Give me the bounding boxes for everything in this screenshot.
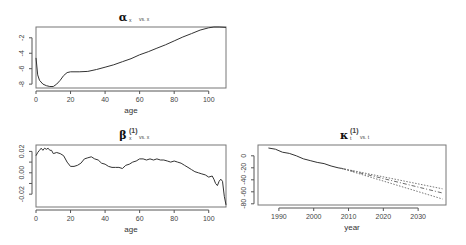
y-tick-label: -4 xyxy=(18,50,25,56)
x-tick-label: 60 xyxy=(136,96,144,103)
chart-title-subscript: t xyxy=(350,135,352,141)
x-tick-label: 80 xyxy=(170,96,178,103)
y-tick-label: -8 xyxy=(18,81,25,87)
chart-title: β xyxy=(119,129,126,142)
x-tick-label: 2030 xyxy=(410,213,426,220)
chart-title-superscript: (1) xyxy=(129,127,138,135)
figure-canvas: 020406080100age-2-4-6-8αxvs. x0204060801… xyxy=(0,0,466,245)
x-tick-label: 20 xyxy=(67,215,75,222)
chart-title-suffix: vs. x xyxy=(139,16,150,22)
x-tick-label: 40 xyxy=(101,215,109,222)
y-tick-label: -0.02 xyxy=(18,186,25,202)
x-tick-label: 1990 xyxy=(271,213,287,220)
y-tick-label: -2 xyxy=(18,35,25,41)
y-tick-label: -80 xyxy=(240,199,247,209)
y-tick-label: -6 xyxy=(18,65,25,71)
y-tick-label: -40 xyxy=(240,175,247,185)
plot-frame xyxy=(258,145,446,205)
chart-title: α xyxy=(119,11,128,24)
x-tick-label: 100 xyxy=(203,96,215,103)
x-tick-label: 60 xyxy=(136,215,144,222)
chart-title-subscript: x xyxy=(129,17,132,23)
y-tick-label: 0.02 xyxy=(18,144,25,158)
y-tick-label: 0.00 xyxy=(18,166,25,180)
x-tick-label: 0 xyxy=(34,215,38,222)
y-tick-label: -20 xyxy=(240,163,247,173)
chart-title-subscript: x xyxy=(129,135,132,141)
x-tick-label: 80 xyxy=(170,215,178,222)
y-tick-label: 0 xyxy=(240,154,247,158)
chart-beta: 020406080100age0.020.00-0.02βx(1)vs. x xyxy=(18,127,226,234)
x-tick-label: 2010 xyxy=(341,213,357,220)
x-tick-label: 40 xyxy=(101,96,109,103)
x-tick-label: 2000 xyxy=(306,213,322,220)
series-line xyxy=(342,168,443,199)
plot-frame xyxy=(36,145,226,207)
series-line xyxy=(36,148,226,205)
x-tick-label: 100 xyxy=(203,215,215,222)
series-line xyxy=(268,148,341,168)
plot-frame xyxy=(36,27,226,88)
y-tick-label: -60 xyxy=(240,187,247,197)
x-tick-label: 20 xyxy=(67,96,75,103)
x-tick-label: 0 xyxy=(34,96,38,103)
chart-alpha: 020406080100age-2-4-6-8αxvs. x xyxy=(18,11,226,115)
x-axis-title: year xyxy=(344,223,360,232)
chart-title-suffix: vs. t xyxy=(360,134,370,140)
chart-title: κ xyxy=(340,129,348,142)
series-line xyxy=(36,27,226,87)
x-axis-title: age xyxy=(124,106,138,115)
x-axis-title: age xyxy=(124,225,138,234)
chart-kappa: 19902000201020202030year0-20-40-60-80κt(… xyxy=(240,127,446,232)
series-line xyxy=(342,168,443,188)
chart-title-superscript: (1) xyxy=(350,127,359,135)
x-tick-label: 2020 xyxy=(376,213,392,220)
series-line xyxy=(342,168,443,193)
chart-title-suffix: vs. x xyxy=(139,134,150,140)
